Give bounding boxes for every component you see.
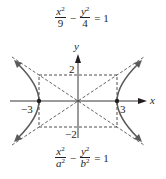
x-axis-label: x: [150, 95, 155, 106]
exponent: 2: [86, 157, 90, 165]
y-axis-arrow-icon: [75, 54, 81, 63]
exponent: 2: [86, 145, 90, 153]
y-squared-over-b-squared: y2 b2: [80, 146, 90, 169]
equals-one: = 1: [94, 152, 108, 164]
tick-label-pos-x: 3: [120, 104, 126, 115]
vertex-right: [115, 99, 119, 103]
exponent: 2: [61, 157, 65, 165]
y-axis-label: y: [74, 41, 79, 52]
tick-label-neg-x: −3: [21, 104, 33, 115]
exponent: 2: [61, 145, 65, 153]
hyperbola-equation-general: x2 a2 − y2 b2 = 1: [0, 146, 166, 169]
minus-sign: −: [70, 152, 76, 164]
x-axis-arrow-icon: [138, 98, 147, 104]
tick-label-neg-y: −2: [65, 129, 77, 140]
tick-label-pos-y: 2: [69, 64, 75, 75]
vertex-left: [37, 99, 41, 103]
x-squared-over-a-squared: x2 a2: [55, 146, 65, 169]
